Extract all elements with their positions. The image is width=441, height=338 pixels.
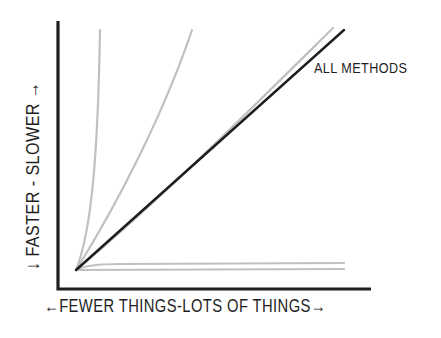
all-methods-line (76, 30, 344, 270)
near-linear-curve (76, 28, 333, 270)
flat-lower-line (76, 269, 344, 270)
complexity-chart (0, 0, 441, 338)
super-linear-curve (76, 30, 192, 270)
steep-curve (76, 30, 100, 270)
y-axis-label: ↓ FASTER - SLOWER → (22, 82, 44, 270)
all-methods-label: ALL METHODS (314, 60, 407, 76)
x-axis-label: ←FEWER THINGS-LOTS OF THINGS→ (44, 296, 326, 317)
